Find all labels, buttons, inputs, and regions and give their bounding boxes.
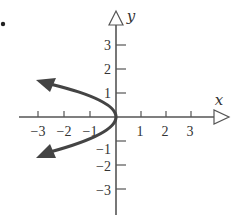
y-axis-arrow-icon bbox=[109, 11, 123, 25]
curve-arrow-upper-icon bbox=[36, 78, 56, 92]
y-axis-label: y bbox=[126, 7, 136, 25]
y-tick-label: −3 bbox=[96, 183, 111, 198]
y-tick-label: 1 bbox=[104, 86, 111, 101]
x-tick-label: 3 bbox=[187, 124, 194, 139]
x-axis-label: x bbox=[215, 91, 224, 109]
y-tick-label: 3 bbox=[104, 38, 111, 53]
x-tick-label: 1 bbox=[137, 124, 144, 139]
y-tick-label: 2 bbox=[104, 62, 111, 77]
x-tick-label: −2 bbox=[57, 124, 72, 139]
x-tick-label: −3 bbox=[31, 124, 46, 139]
x-tick-label: 2 bbox=[162, 124, 169, 139]
curve-arrow-lower-icon bbox=[36, 144, 56, 158]
x-axis-arrow-icon bbox=[214, 110, 229, 124]
y-tick-label: −2 bbox=[96, 159, 111, 174]
y-tick-label: −1 bbox=[96, 142, 111, 157]
graph-figure: −3 −2 −1 1 2 3 3 2 1 −1 −2 −3 x y bbox=[0, 0, 239, 217]
bullet-dot bbox=[1, 22, 5, 26]
